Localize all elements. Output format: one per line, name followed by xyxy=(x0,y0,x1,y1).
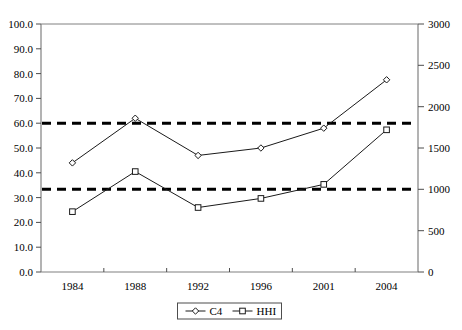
x-axis-category-label: 2004 xyxy=(376,280,399,292)
series-layer xyxy=(69,77,390,215)
left-axis-tick-label-90: 90.0 xyxy=(14,43,34,55)
right-axis-tick-label-500: 500 xyxy=(428,225,445,237)
data-point-marker-c4 xyxy=(132,115,138,121)
data-point-marker-hhi xyxy=(258,196,264,202)
dual-axis-line-chart: 100.0 90.0 80.0 70.0 60.0 50.0 40.0 30.0… xyxy=(0,0,462,330)
legend-marker-hhi xyxy=(240,308,246,314)
x-axis-category-label: 1992 xyxy=(187,280,209,292)
x-axis-category-label: 2001 xyxy=(313,280,335,292)
chart-container: 100.0 90.0 80.0 70.0 60.0 50.0 40.0 30.0… xyxy=(0,0,462,330)
left-axis-tick-label-60: 60.0 xyxy=(14,117,34,129)
data-point-marker-c4 xyxy=(258,145,264,151)
left-axis-tick-label-10: 10.0 xyxy=(14,241,34,253)
right-axis-tick-label-3000: 3000 xyxy=(428,18,451,30)
reference-lines xyxy=(42,123,417,189)
right-axis-tick-label-1500: 1500 xyxy=(428,142,451,154)
right-axis-tick-label-0: 0 xyxy=(428,266,434,278)
data-point-marker-c4 xyxy=(69,160,75,166)
data-point-marker-hhi xyxy=(70,209,76,215)
right-axis-tick-label-2000: 2000 xyxy=(428,101,451,113)
x-axis-category-label: 1988 xyxy=(124,280,147,292)
data-point-marker-hhi xyxy=(321,182,327,188)
left-axis-tick-label-40: 40.0 xyxy=(14,167,34,179)
data-point-marker-hhi xyxy=(132,169,138,175)
series-line-c4 xyxy=(72,80,386,163)
chart-legend: C4HHI xyxy=(178,303,282,319)
left-axis-tick-label-70: 70.0 xyxy=(14,92,34,104)
right-axis-tick-label-1000: 1000 xyxy=(428,183,451,195)
left-axis-tick-label-20: 20.0 xyxy=(14,216,34,228)
left-axis-tick-label-30: 30.0 xyxy=(14,192,34,204)
right-axis-tick-label-2500: 2500 xyxy=(428,59,451,71)
legend-label-c4: C4 xyxy=(210,305,223,317)
data-point-marker-c4 xyxy=(195,152,201,158)
data-point-marker-hhi xyxy=(384,127,390,133)
right-axis-ticks: 3000 2500 2000 1500 1000 500 0 xyxy=(418,18,451,278)
data-point-marker-hhi xyxy=(195,205,201,211)
left-axis-tick-label-100: 100.0 xyxy=(8,18,33,30)
legend-label-hhi: HHI xyxy=(257,305,277,317)
series-line-hhi xyxy=(72,130,386,212)
plot-frame xyxy=(41,24,418,272)
left-axis-tick-label-50: 50.0 xyxy=(14,142,34,154)
left-axis-tick-label-80: 80.0 xyxy=(14,68,34,80)
x-axis-category-labels: 198419881992199620012004 xyxy=(61,280,398,292)
left-axis-ticks: 100.0 90.0 80.0 70.0 60.0 50.0 40.0 30.0… xyxy=(8,18,41,278)
left-axis-tick-label-0: 0.0 xyxy=(19,266,33,278)
x-axis-category-label: 1984 xyxy=(61,280,84,292)
x-axis-category-label: 1996 xyxy=(250,280,273,292)
